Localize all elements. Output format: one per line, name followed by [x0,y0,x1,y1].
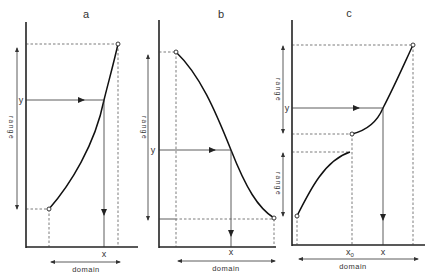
panel-c-endpoint-bottom [295,214,299,218]
panel-c-upper-range-label: range [274,78,282,102]
panel-a-endpoint-top [116,42,120,46]
panel-b-function-curve [176,52,274,218]
panel-a-endpoint-bottom [47,207,51,211]
panel-b: b y x range range range domain [140,8,283,273]
panel-c-title: c [346,7,352,19]
panel-c-domain-label: domain [339,262,367,271]
panel-b-y-label: y [151,145,156,155]
panel-c-y-label: y [285,103,290,113]
panel-c-endpoint-top [411,43,415,47]
panel-b-domain-label: domain [212,264,240,273]
panel-b-title: b [218,8,224,20]
panel-c-jump-point [350,132,354,136]
panel-c-x-label: x [381,247,386,257]
inverse-function-diagram: a y x range domain b [0,0,431,279]
panel-a-domain-label: domain [72,265,100,274]
panel-b-x-label: x [229,247,234,257]
panel-c: c y x x0 domain [285,7,425,271]
panel-b-range-label: range [140,116,148,140]
panel-c-upper-curve [352,45,413,134]
panel-c-lower-range-label: range [274,172,282,196]
panel-a: a y x range domain [7,8,138,274]
panel-c-lower-curve [297,152,350,216]
panel-a-range-label: range [7,116,15,140]
panel-a-x-label: x [102,249,107,259]
panel-b-endpoint-top [174,50,178,54]
panel-c-x0-label: x0 [346,247,355,258]
panel-a-title: a [83,8,90,20]
panel-a-y-label: y [19,95,24,105]
panel-b-endpoint-bottom [272,216,276,220]
panel-a-function-curve [49,44,118,209]
